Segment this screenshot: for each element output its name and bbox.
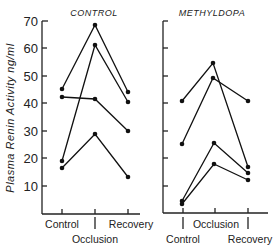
left-x-label-occlusion: Occlusion	[72, 233, 118, 245]
left-x-label-control: Control	[45, 218, 79, 230]
right-y-ticks	[163, 21, 168, 186]
right-x-label-recovery: Recovery	[228, 233, 273, 245]
left-series-line-4	[62, 134, 128, 177]
right-panel-title: METHYLDOPA	[179, 8, 245, 18]
renin-chart: Plasma Renin Activity ng/ml 70 60 50 40 …	[0, 0, 278, 247]
y-tick-60: 60	[24, 41, 38, 56]
left-series-line-2	[62, 45, 128, 161]
right-x-label-occlusion: Occlusion	[193, 218, 239, 230]
right-series	[182, 63, 248, 204]
y-tick-30: 30	[24, 124, 38, 139]
right-x-label-control: Control	[166, 233, 200, 245]
left-panel-title: CONTROL	[70, 8, 118, 18]
y-tick-10: 10	[24, 179, 38, 194]
left-x-label-recovery: Recovery	[109, 218, 154, 230]
right-points	[180, 61, 251, 207]
left-points	[60, 23, 131, 180]
left-y-ticks	[42, 21, 48, 186]
left-series-line-1	[62, 25, 128, 92]
y-tick-70: 70	[24, 14, 38, 29]
y-tick-50: 50	[24, 69, 38, 84]
y-axis-label: Plasma Renin Activity ng/ml	[4, 43, 16, 192]
y-tick-20: 20	[24, 151, 38, 166]
y-tick-labels: 70 60 50 40 30 20 10	[24, 14, 38, 194]
left-panel	[42, 21, 140, 229]
y-tick-40: 40	[24, 96, 38, 111]
right-panel	[163, 21, 268, 229]
